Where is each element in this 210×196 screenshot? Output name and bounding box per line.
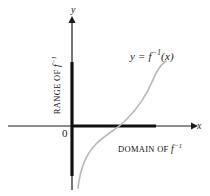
curve-equation-label: y = f−1(x) [130,49,174,62]
x-axis-label: x [197,121,201,131]
range-function-symbol: f [52,64,62,67]
equation-exponent: −1 [152,48,161,57]
range-label-container: RANGE OF f−1 [49,49,63,121]
domain-label: DOMAIN OF f−1 [118,143,182,154]
inverse-function-graph-figure: y x 0 y = f−1(x) DOMAIN OF f−1 RANGE OF … [0,0,210,196]
graph-canvas [0,0,210,196]
domain-label-text: DOMAIN OF [118,144,171,154]
origin-label: 0 [62,128,68,139]
y-axis-label: y [71,5,75,15]
domain-exponent: −1 [174,142,182,149]
equation-lhs: y = [130,50,149,62]
range-label: RANGE OF f−1 [50,56,62,114]
range-exponent: −1 [50,56,57,64]
equation-argument: (x) [161,50,174,62]
range-label-text: RANGE OF [52,67,62,114]
y-axis-arrowhead [68,16,75,23]
